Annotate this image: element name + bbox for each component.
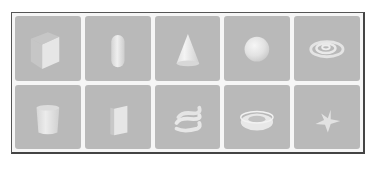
shape-tile-capsule[interactable] (85, 16, 151, 81)
helix-icon (155, 85, 221, 150)
cylinder-icon (15, 85, 81, 150)
torus-icon (224, 85, 290, 150)
shape-tile-panel[interactable] (85, 85, 151, 150)
panel-icon (85, 85, 151, 150)
shape-tile-cube[interactable] (15, 16, 81, 81)
star-icon (294, 85, 360, 150)
shape-tile-spiral[interactable] (294, 16, 360, 81)
capsule-icon (85, 16, 151, 81)
shape-tile-sphere[interactable] (224, 16, 290, 81)
shape-tile-torus[interactable] (224, 85, 290, 150)
sphere-icon (224, 16, 290, 81)
shape-tile-cone[interactable] (155, 16, 221, 81)
shape-tile-cylinder[interactable] (15, 85, 81, 150)
shape-tile-helix[interactable] (155, 85, 221, 150)
cube-icon (15, 16, 81, 81)
cone-icon (155, 16, 221, 81)
shape-grid (15, 16, 360, 149)
shape-tile-star[interactable] (294, 85, 360, 150)
spiral-icon (294, 16, 360, 81)
shape-gallery (11, 12, 365, 154)
